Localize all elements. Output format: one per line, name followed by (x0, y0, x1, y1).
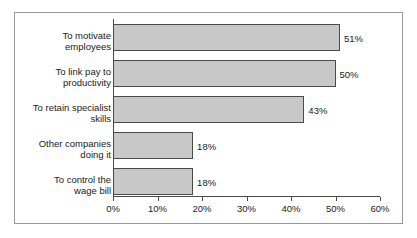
x-axis-tick-mark (202, 197, 203, 201)
category-label: To motivate employees (0, 30, 111, 52)
bar-value-label: 18% (193, 140, 216, 151)
bar[interactable] (113, 96, 304, 123)
x-axis-tick-mark (336, 197, 337, 201)
bar[interactable] (113, 24, 340, 51)
chart-frame: To motivate employees To link pay to pro… (14, 12, 403, 224)
x-axis-tick-label: 60% (370, 203, 389, 214)
value-axis-line (113, 19, 114, 197)
x-axis-tick-label: 10% (148, 203, 167, 214)
x-axis-tick-label: 50% (326, 203, 345, 214)
plot-area: To motivate employees To link pay to pro… (15, 13, 404, 225)
x-axis-tick-mark (380, 197, 381, 201)
bar[interactable] (113, 132, 193, 159)
bar-value-label: 51% (340, 32, 363, 43)
x-axis-tick-mark (158, 197, 159, 201)
bar-value-label: 18% (193, 176, 216, 187)
x-axis-tick-mark (291, 197, 292, 201)
x-axis-tick-label: 0% (106, 203, 120, 214)
category-label: To retain specialist skills (0, 102, 111, 124)
x-axis-tick-mark (113, 197, 114, 201)
bar-value-label: 50% (336, 68, 359, 79)
category-label: To control the wage bill (0, 174, 111, 196)
x-axis-tick-label: 40% (281, 203, 300, 214)
bar[interactable] (113, 60, 336, 87)
category-label: Other companies doing it (0, 138, 111, 160)
x-axis-tick-mark (247, 197, 248, 201)
category-label: To link pay to productivity (0, 66, 111, 88)
bar-value-label: 43% (304, 104, 327, 115)
x-axis-tick-label: 20% (192, 203, 211, 214)
x-axis-tick-label: 30% (237, 203, 256, 214)
bar[interactable] (113, 168, 193, 195)
